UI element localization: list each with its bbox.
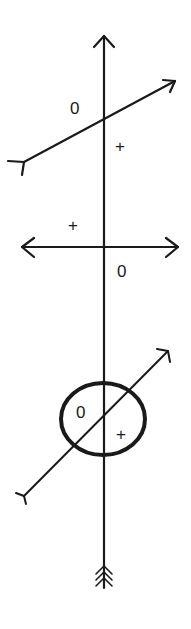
panel-2-horizontal-arrow: + 0 bbox=[22, 216, 178, 281]
diagram-canvas: 0 + + 0 0 + bbox=[0, 0, 191, 629]
label-plus: + bbox=[115, 137, 125, 156]
label-plus: + bbox=[68, 216, 78, 235]
panel-3-oval-arrow: 0 + bbox=[16, 349, 170, 504]
label-zero: 0 bbox=[117, 262, 126, 281]
label-zero: 0 bbox=[70, 99, 79, 118]
label-plus: + bbox=[116, 425, 126, 444]
panel-1-oblique-arrow: 0 + bbox=[8, 80, 175, 175]
label-zero: 0 bbox=[76, 403, 85, 422]
fletching-icon bbox=[8, 161, 24, 175]
